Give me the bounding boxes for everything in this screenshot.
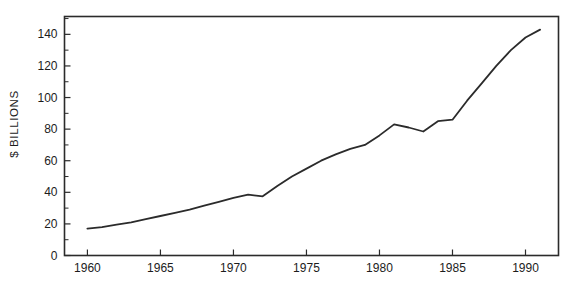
y-axis-tick-labels: 020406080100120140 — [37, 27, 57, 262]
y-axis-title: $ BILLIONS — [8, 90, 20, 157]
x-tick-label: 1965 — [147, 261, 174, 275]
y-tick-label: 100 — [37, 91, 57, 105]
y-tick-label: 120 — [37, 59, 57, 73]
x-tick-label: 1960 — [74, 261, 101, 275]
y-axis-ticks — [65, 19, 71, 256]
y-tick-label: 0 — [51, 249, 58, 263]
chart-figure: 020406080100120140 196019651970197519801… — [0, 0, 569, 287]
x-tick-label: 1980 — [366, 261, 393, 275]
x-tick-label: 1970 — [220, 261, 247, 275]
x-tick-label: 1990 — [512, 261, 539, 275]
plot-frame-rect — [65, 17, 559, 256]
y-tick-label: 140 — [37, 27, 57, 41]
y-tick-label: 40 — [44, 185, 58, 199]
x-axis-tick-labels: 1960196519701975198019851990 — [74, 261, 539, 275]
x-axis-ticks — [87, 250, 525, 256]
plot-frame — [65, 17, 559, 256]
y-tick-label: 60 — [44, 154, 58, 168]
data-line-path — [87, 30, 540, 229]
x-tick-label: 1985 — [439, 261, 466, 275]
x-tick-label: 1975 — [293, 261, 320, 275]
line-chart: 020406080100120140 196019651970197519801… — [0, 0, 569, 287]
y-tick-label: 20 — [44, 217, 58, 231]
data-line — [87, 30, 540, 229]
y-tick-label: 80 — [44, 122, 58, 136]
